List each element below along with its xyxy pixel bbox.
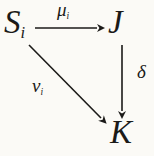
label-mu-subscript: i — [67, 11, 70, 21]
label-delta: δ — [137, 62, 146, 81]
commutative-diagram: Si J K μi δ νi — [0, 0, 154, 156]
node-S-i: Si — [4, 6, 25, 41]
label-mu-base: μ — [57, 0, 67, 20]
label-nu-i: νi — [32, 76, 43, 97]
node-J: J — [108, 6, 123, 39]
node-S-subscript: i — [21, 23, 26, 42]
label-nu-subscript: i — [40, 87, 43, 97]
node-S-base: S — [4, 4, 21, 40]
label-mu-i: μi — [57, 0, 69, 21]
node-K: K — [110, 116, 132, 149]
